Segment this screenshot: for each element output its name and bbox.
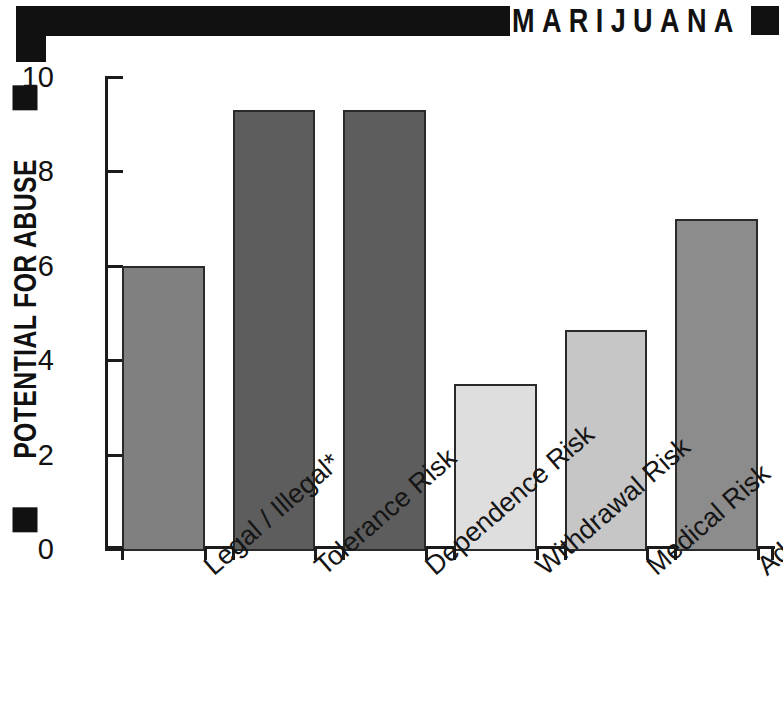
x-axis-label-tolerance-risk: Tolerance Risk: [310, 560, 328, 580]
x-axis-label-group: Legal / Illegal*Tolerance RiskDependence…: [0, 556, 783, 728]
header-bar-vertical: [16, 6, 46, 62]
x-axis-label-medical-risk: Medical Risk: [642, 560, 660, 580]
y-tick-label-4: 4: [14, 346, 54, 375]
x-axis-label-withdrawal-risk: Withdrawal Risk: [531, 560, 549, 580]
x-axis-label-addiction-risk: Addiction Risk: [753, 560, 771, 580]
header-endcap-square: [751, 6, 779, 35]
y-axis-title-square-start: [13, 507, 38, 532]
y-tick-8: [105, 170, 123, 173]
y-axis-title-group: POTENTIAL FOR ABUSE: [2, 64, 48, 554]
y-tick-6: [105, 265, 123, 268]
y-axis-line: [105, 77, 108, 549]
x-axis-label-legal-illegal: Legal / Illegal*: [199, 560, 217, 580]
header-bar-horizontal: [16, 6, 510, 36]
page-title: MARIJUANA: [512, 2, 741, 38]
y-tick-10: [105, 76, 123, 79]
y-tick-label-8: 8: [14, 157, 54, 186]
y-tick-label-2: 2: [14, 440, 54, 469]
y-tick-2: [105, 454, 123, 457]
y-axis-title: POTENTIAL FOR ABUSE: [10, 159, 41, 459]
y-tick-label-6: 6: [14, 251, 54, 280]
chart-page: MARIJUANA POTENTIAL FOR ABUSE 0246810 Le…: [0, 0, 783, 728]
y-tick-4: [105, 359, 123, 362]
x-axis-label-dependence-risk: Dependence Risk: [421, 560, 439, 580]
y-tick-label-10: 10: [14, 63, 54, 92]
bar-legal-illegal[interactable]: [122, 266, 204, 551]
